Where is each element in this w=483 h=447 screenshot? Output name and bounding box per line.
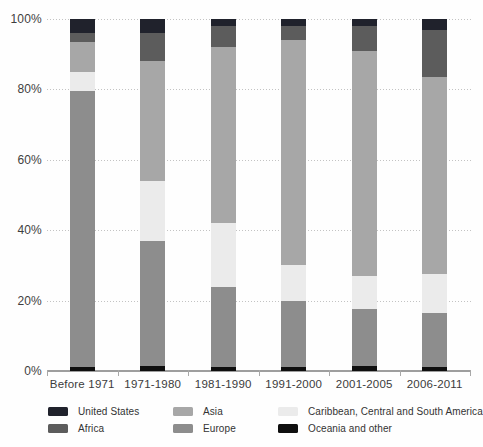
x-axis-category-label: 2006-2011	[390, 378, 480, 390]
segment-oceania-and-other	[140, 366, 165, 371]
segment-caribbean-central-and-south-america	[422, 274, 447, 313]
segment-caribbean-central-and-south-america	[211, 223, 236, 286]
segment-asia	[352, 51, 377, 276]
segment-africa	[352, 26, 377, 51]
segment-oceania-and-other	[352, 366, 377, 371]
bar-2001-2005	[352, 19, 377, 371]
x-axis-tick	[329, 370, 330, 376]
segment-europe	[352, 309, 377, 365]
x-axis-tick	[259, 370, 260, 376]
segment-europe	[140, 241, 165, 366]
legend-swatch-united-states	[48, 407, 68, 416]
gridline	[47, 301, 471, 302]
legend-item-africa: Africa	[48, 423, 104, 434]
legend-label: Caribbean, Central and South America	[308, 406, 483, 417]
bar-before-1971	[70, 19, 95, 371]
y-axis-tick-label: 40%	[0, 223, 42, 237]
x-axis-tick	[400, 370, 401, 376]
y-axis-tick-label: 20%	[0, 294, 42, 308]
x-axis-tick	[118, 370, 119, 376]
gridline	[47, 89, 471, 90]
gridline	[47, 160, 471, 161]
segment-africa	[281, 26, 306, 40]
x-axis-tick	[47, 370, 48, 376]
gridline	[47, 19, 471, 20]
legend-swatch-asia	[173, 407, 193, 416]
segment-united-states	[211, 19, 236, 26]
legend-label: Oceania and other	[308, 423, 392, 434]
bar-1991-2000	[281, 19, 306, 371]
legend-swatch-europe	[173, 424, 193, 433]
legend-item-caribbean-central-and-south-america: Caribbean, Central and South America	[278, 406, 483, 417]
segment-asia	[422, 77, 447, 274]
segment-europe	[422, 313, 447, 368]
segment-united-states	[140, 19, 165, 33]
stacked-bar-chart-region-of-birth-by-period: 100%80%60%40%20%0%Before 19711971-198019…	[0, 0, 483, 447]
legend-item-asia: Asia	[173, 406, 223, 417]
segment-africa	[211, 26, 236, 47]
segment-united-states	[70, 19, 95, 33]
x-axis-tick	[188, 370, 189, 376]
legend-item-oceania-and-other: Oceania and other	[278, 423, 392, 434]
legend-swatch-caribbean-central-and-south-america	[278, 407, 298, 416]
segment-oceania-and-other	[422, 367, 447, 371]
segment-europe	[70, 91, 95, 367]
legend-swatch-africa	[48, 424, 68, 433]
segment-united-states	[422, 19, 447, 30]
segment-caribbean-central-and-south-america	[70, 72, 95, 91]
segment-caribbean-central-and-south-america	[352, 276, 377, 309]
segment-oceania-and-other	[70, 367, 95, 371]
y-axis-tick-label: 80%	[0, 82, 42, 96]
segment-caribbean-central-and-south-america	[281, 265, 306, 300]
segment-africa	[70, 33, 95, 42]
segment-asia	[140, 61, 165, 181]
y-axis-tick-label: 0%	[0, 364, 42, 378]
legend-item-europe: Europe	[173, 423, 236, 434]
segment-oceania-and-other	[211, 367, 236, 371]
bar-1981-1990	[211, 19, 236, 371]
gridline	[47, 230, 471, 231]
segment-oceania-and-other	[281, 367, 306, 371]
segment-europe	[211, 287, 236, 368]
legend-label: Europe	[203, 423, 236, 434]
bar-1971-1980	[140, 19, 165, 371]
segment-caribbean-central-and-south-america	[140, 181, 165, 241]
segment-asia	[70, 42, 95, 72]
legend-label: Asia	[203, 406, 223, 417]
bar-2006-2011	[422, 19, 447, 371]
legend-label: Africa	[78, 423, 104, 434]
legend-item-united-states: United States	[48, 406, 139, 417]
segment-asia	[281, 40, 306, 265]
segment-asia	[211, 47, 236, 223]
segment-united-states	[352, 19, 377, 26]
segment-united-states	[281, 19, 306, 26]
segment-europe	[281, 301, 306, 368]
y-axis-tick-label: 100%	[0, 12, 42, 26]
y-axis-tick-label: 60%	[0, 153, 42, 167]
segment-africa	[140, 33, 165, 61]
legend-swatch-oceania-and-other	[278, 424, 298, 433]
legend-label: United States	[78, 406, 139, 417]
segment-africa	[422, 30, 447, 78]
x-axis-tick	[470, 370, 471, 376]
